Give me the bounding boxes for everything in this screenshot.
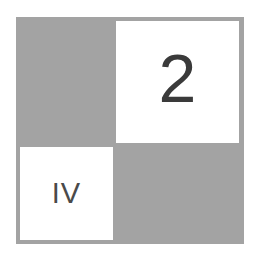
cell-bottom-left: IV: [20, 147, 113, 240]
cell-top-right: 2: [116, 21, 239, 143]
cell-label-roman-numeral: IV: [52, 179, 81, 208]
cell-label-arabic-numeral: 2: [159, 44, 197, 112]
diagram-canvas: 2 IV: [0, 0, 258, 258]
